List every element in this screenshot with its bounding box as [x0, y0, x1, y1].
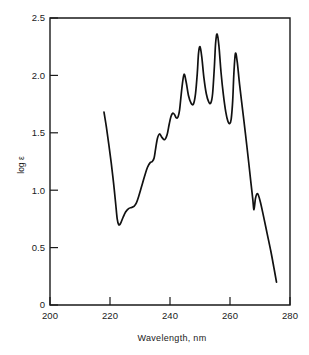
- x-tick-label: 240: [162, 310, 178, 321]
- spectrum-chart: 0 0.5 1.0 1.5 2.0 2.5 200 220 240 260 28…: [0, 0, 309, 355]
- x-tick-label: 200: [42, 310, 58, 321]
- y-tick-label: 0.5: [32, 242, 45, 253]
- x-axis-ticks: [50, 297, 290, 305]
- x-axis-title: Wavelength, nm: [138, 333, 207, 343]
- x-tick-label: 220: [102, 310, 118, 321]
- y-tick-label: 2.0: [32, 70, 45, 81]
- y-tick-label: 0: [40, 299, 45, 310]
- y-tick-label: 1.5: [32, 127, 45, 138]
- spectrum-curve: [104, 34, 277, 282]
- y-axis-ticks: [50, 18, 58, 305]
- y-tick-labels: 0 0.5 1.0 1.5 2.0 2.5: [32, 12, 45, 310]
- y-tick-label: 2.5: [32, 12, 45, 23]
- y-axis-title: log ε: [16, 156, 26, 174]
- x-tick-label: 260: [222, 310, 238, 321]
- plot-frame: [50, 18, 290, 305]
- y-tick-label: 1.0: [32, 185, 45, 196]
- x-tick-label: 280: [282, 310, 298, 321]
- figure-panel: 0 0.5 1.0 1.5 2.0 2.5 200 220 240 260 28…: [0, 0, 309, 355]
- x-tick-labels: 200 220 240 260 280: [42, 310, 298, 321]
